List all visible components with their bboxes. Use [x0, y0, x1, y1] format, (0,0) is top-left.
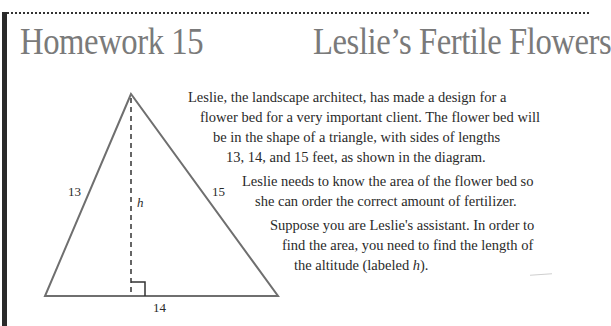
paragraph-1-line-2: flower bed for a very important client. … [200, 106, 540, 128]
paragraph-1-line-3: be in the shape of a triangle, with side… [213, 126, 500, 148]
paragraph-3-line-1: Suppose you are Leslie's assistant. In o… [270, 214, 534, 236]
paragraph-2-line-1: Leslie needs to know the area of the flo… [242, 170, 534, 192]
paragraph-1-line-4: 13, 14, and 15 feet, as shown in the dia… [226, 146, 486, 168]
paragraph-3-line-3-end: ). [420, 257, 428, 273]
paragraph-3-line-2: find the area, you need to find the leng… [282, 234, 533, 256]
altitude-variable: h [413, 257, 420, 273]
paragraph-3-line-3-text: the altitude (labeled [294, 257, 413, 273]
paragraph-3-line-3: the altitude (labeled h). [294, 254, 429, 276]
paragraph-1-line-1: Leslie, the landscape architect, has mad… [188, 86, 506, 108]
paragraph-2-line-2: she can order the correct amount of fert… [255, 190, 517, 212]
